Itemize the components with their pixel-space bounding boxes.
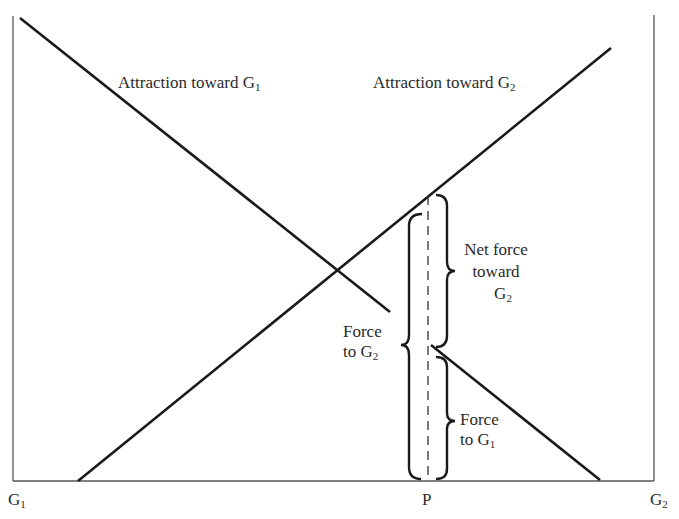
net-force-line2: toward bbox=[460, 262, 532, 282]
force-to-g1-line2-sub: 1 bbox=[490, 438, 496, 450]
net-force-line1: Net force bbox=[460, 240, 532, 260]
force-to-g2-line2-sub: 2 bbox=[373, 350, 379, 362]
attraction-g1-label: Attraction toward G1 bbox=[118, 73, 260, 93]
force-to-g2-label: Force to G2 bbox=[343, 322, 382, 362]
net-force-line3: G2 bbox=[460, 284, 532, 304]
g2-axis-label: G2 bbox=[650, 490, 668, 510]
net-force-bracket bbox=[436, 195, 455, 347]
force-to-g1-line2: to G1 bbox=[460, 430, 499, 450]
p-axis-label: P bbox=[422, 490, 431, 510]
attraction-g1-line-upper bbox=[20, 18, 390, 312]
force-diagram bbox=[0, 0, 679, 519]
force-to-g2-bracket bbox=[401, 214, 422, 479]
attraction-g1-label-sub: 1 bbox=[255, 81, 261, 93]
attraction-g1-label-base: Attraction toward G bbox=[118, 73, 255, 92]
force-to-g1-line2-base: to G bbox=[460, 430, 490, 449]
force-to-g2-line1: Force bbox=[343, 322, 382, 342]
g1-axis-label: G1 bbox=[8, 490, 26, 510]
force-to-g2-line2-base: to G bbox=[343, 342, 373, 361]
force-to-g1-line1: Force bbox=[460, 410, 499, 430]
attraction-g2-label-base: Attraction toward G bbox=[373, 73, 510, 92]
attraction-g2-label-sub: 2 bbox=[510, 81, 516, 93]
g1-axis-label-base: G bbox=[8, 490, 20, 509]
force-to-g2-line2: to G2 bbox=[343, 342, 382, 362]
attraction-g2-label: Attraction toward G2 bbox=[373, 73, 515, 93]
net-force-line3-base: G bbox=[494, 284, 506, 303]
g2-axis-label-base: G bbox=[650, 490, 662, 509]
attraction-g1-line-lower bbox=[431, 345, 600, 480]
force-to-g1-bracket bbox=[436, 357, 455, 479]
g1-axis-label-sub: 1 bbox=[20, 498, 26, 510]
net-force-line3-sub: 2 bbox=[506, 292, 512, 304]
net-force-label: Net force toward G2 bbox=[460, 240, 532, 304]
force-to-g1-label: Force to G1 bbox=[460, 410, 499, 450]
g2-axis-label-sub: 2 bbox=[662, 498, 668, 510]
